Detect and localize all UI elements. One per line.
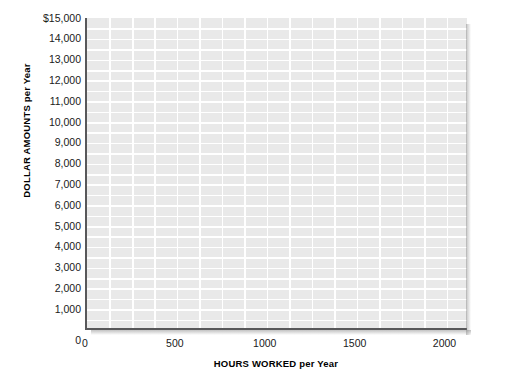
gridline-horizontal: [87, 268, 467, 270]
gridline-horizontal: [87, 257, 467, 259]
gridline-vertical: [289, 18, 291, 328]
x-axis-title: HOURS WORKED per Year: [85, 358, 467, 369]
y-axis-tick-labels: $15,00014,00013,00012,00011,00010,0009,0…: [0, 0, 81, 383]
gridline-vertical: [199, 18, 201, 328]
gridline-horizontal: [87, 236, 467, 238]
gridline-horizontal: [87, 205, 467, 207]
y-tick-label: 5,000: [0, 221, 81, 232]
gridline-vertical: [244, 18, 246, 328]
y-tick-label: 12,000: [0, 75, 81, 86]
gridline-horizontal: [87, 91, 467, 93]
gridline-horizontal: [87, 320, 467, 322]
gridline-horizontal: [87, 70, 467, 72]
gridline-horizontal: [87, 288, 467, 290]
chart-figure: DOLLAR AMOUNTS per Year $15,00014,00013,…: [0, 0, 505, 383]
x-tick-label: 500: [140, 337, 210, 350]
x-tick-label: 2000: [410, 337, 480, 350]
gridline-vertical: [402, 18, 404, 328]
y-tick-label: 4,000: [0, 241, 81, 252]
gridline-horizontal: [87, 174, 467, 176]
y-tick-label: 9,000: [0, 137, 81, 148]
gridline-horizontal: [87, 299, 467, 301]
y-tick-label: 6,000: [0, 200, 81, 211]
gridline-horizontal: [87, 39, 467, 41]
gridline-vertical: [109, 18, 111, 328]
gridline-horizontal: [87, 247, 467, 249]
x-tick-label: 1500: [320, 337, 390, 350]
gridline-horizontal: [87, 28, 467, 30]
gridline-horizontal: [87, 132, 467, 134]
gridline-horizontal: [87, 112, 467, 114]
y-tick-label: 7,000: [0, 179, 81, 190]
gridline-horizontal: [87, 164, 467, 166]
gridline-horizontal: [87, 153, 467, 155]
gridline-vertical: [447, 18, 449, 328]
x-axis-tick-labels: 0500100015002000: [0, 337, 505, 355]
gridline-horizontal: [87, 80, 467, 82]
y-tick-label: $15,000: [0, 13, 81, 24]
gridline-horizontal: [87, 184, 467, 186]
gridline-horizontal: [87, 309, 467, 311]
gridline-horizontal: [87, 195, 467, 197]
gridline-horizontal: [87, 122, 467, 124]
gridline-vertical: [154, 18, 156, 328]
gridline-vertical: [424, 18, 426, 328]
plot-area[interactable]: [85, 18, 467, 330]
gridline-vertical: [334, 18, 336, 328]
y-tick-label: 13,000: [0, 54, 81, 65]
gridline-vertical: [222, 18, 224, 328]
gridline-horizontal: [87, 278, 467, 280]
gridline-vertical: [267, 18, 269, 328]
gridline-horizontal: [87, 49, 467, 51]
y-tick-label: 10,000: [0, 117, 81, 128]
x-tick-label: 0: [50, 337, 120, 350]
y-tick-label: 8,000: [0, 158, 81, 169]
y-tick-label: 1,000: [0, 304, 81, 315]
gridline-vertical: [132, 18, 134, 328]
gridline-horizontal: [87, 101, 467, 103]
gridline-horizontal: [87, 216, 467, 218]
x-tick-label: 1000: [230, 337, 300, 350]
y-tick-label: 11,000: [0, 96, 81, 107]
gridline-vertical: [177, 18, 179, 328]
gridline-vertical: [357, 18, 359, 328]
gridline-vertical: [312, 18, 314, 328]
gridline-horizontal: [87, 143, 467, 145]
gridline-vertical: [379, 18, 381, 328]
gridlines: [87, 18, 467, 328]
y-tick-label: 14,000: [0, 33, 81, 44]
gridline-horizontal: [87, 60, 467, 62]
y-tick-label: 2,000: [0, 283, 81, 294]
y-tick-label: 3,000: [0, 262, 81, 273]
gridline-horizontal: [87, 226, 467, 228]
